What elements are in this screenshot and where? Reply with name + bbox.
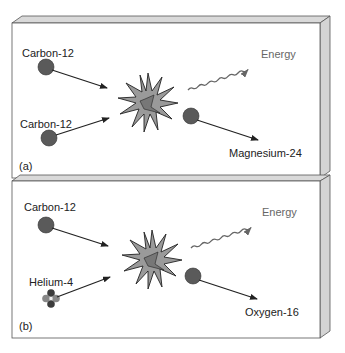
label-energy: Energy	[261, 48, 296, 60]
panel-b-top-edge	[12, 175, 330, 181]
label-product: Magnesium-24	[229, 147, 302, 159]
panel-b: Carbon-12 Helium-4 Energy Oxygen-16 (b)	[12, 175, 330, 338]
panel-a: Carbon-12 Carbon-12 Energy Magnesium-24 …	[12, 16, 330, 178]
label-product: Oxygen-16	[245, 306, 299, 318]
panel-b-side-edge	[320, 175, 330, 338]
panel-tag-b: (b)	[19, 320, 32, 332]
label-energy: Energy	[262, 206, 297, 218]
panel-a-top-edge	[12, 16, 330, 23]
label-reactant-1: Carbon-12	[22, 47, 74, 59]
fusion-diagram: Carbon-12 Carbon-12 Energy Magnesium-24 …	[0, 0, 345, 353]
panel-tag-a: (a)	[19, 160, 32, 172]
label-reactant-2: Carbon-12	[20, 118, 72, 130]
nucleus-carbon-12	[38, 59, 54, 75]
label-reactant-1: Carbon-12	[24, 201, 76, 213]
panel-a-side-edge	[320, 16, 330, 178]
nucleus-oxygen-16	[185, 268, 201, 284]
nucleus-magnesium-24	[183, 108, 199, 124]
label-reactant-2: Helium-4	[29, 276, 73, 288]
nucleus-carbon-12	[38, 217, 54, 233]
nucleus-carbon-12	[41, 130, 57, 146]
